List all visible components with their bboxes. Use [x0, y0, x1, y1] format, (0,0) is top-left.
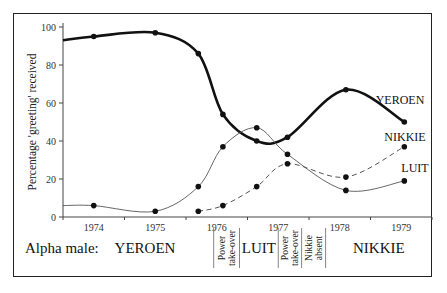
- y-tick-label: 60: [46, 98, 56, 109]
- alpha-male-label: Alpha male:: [25, 240, 99, 256]
- data-point-luit: [343, 188, 349, 194]
- x-tick-label: 1979: [391, 222, 411, 233]
- data-markers: [91, 30, 407, 214]
- y-tick-label: 100: [41, 22, 56, 33]
- text-labels: YEROENNIKKIELUIT: [376, 93, 430, 175]
- series-line-luit: [63, 128, 404, 212]
- period-label-line: absent: [314, 236, 324, 261]
- alpha-male-row: Alpha male:YEROENPowertake-overLUITPower…: [25, 228, 405, 268]
- data-point-yeroen: [220, 112, 226, 118]
- period-label-nikkie: NIKKIE: [353, 240, 405, 256]
- y-tick-label: 40: [46, 136, 56, 147]
- period-label-line: Power: [280, 235, 290, 260]
- y-axis-label: Percentage 'greeting' received: [26, 53, 39, 190]
- series-label-yeroen: YEROEN: [376, 93, 425, 107]
- data-point-luit: [254, 125, 260, 131]
- x-tick-label: 1974: [84, 222, 104, 233]
- data-point-nikkie: [220, 203, 226, 209]
- chart: 020406080100197419751976197719781979Perc…: [0, 0, 447, 293]
- data-point-luit: [196, 184, 202, 190]
- series-lines: [63, 32, 404, 212]
- data-point-yeroen: [152, 30, 158, 36]
- series-line-nikkie: [198, 147, 404, 212]
- data-point-nikkie: [285, 161, 291, 167]
- data-point-yeroen: [285, 134, 291, 140]
- period-label-line: take-over: [227, 229, 237, 266]
- data-point-luit: [152, 209, 158, 215]
- data-point-yeroen: [196, 51, 202, 57]
- series-label-luit: LUIT: [401, 161, 429, 175]
- data-point-yeroen: [254, 138, 260, 144]
- series-label-nikkie: NIKKIE: [384, 130, 425, 144]
- data-point-nikkie: [343, 174, 349, 180]
- period-rotated-label: Nikkieabsent: [304, 235, 324, 261]
- period-rotated-label: Powertake-over: [280, 229, 300, 266]
- data-point-nikkie: [196, 209, 202, 215]
- x-tick-label: 1976: [207, 222, 227, 233]
- period-label-line: Nikkie: [304, 235, 314, 261]
- axes: 020406080100197419751976197719781979Perc…: [26, 22, 432, 234]
- data-point-yeroen: [402, 119, 408, 125]
- x-tick-label: 1978: [330, 222, 350, 233]
- y-tick-label: 20: [46, 174, 56, 185]
- period-label-line: Power: [217, 235, 227, 260]
- y-tick-label: 80: [46, 60, 56, 71]
- period-label-yeroen: YEROEN: [115, 240, 176, 256]
- data-point-luit: [220, 144, 226, 150]
- period-rotated-label: Powertake-over: [217, 229, 237, 266]
- y-tick-label: 0: [51, 212, 56, 223]
- period-label-luit: LUIT: [242, 240, 276, 256]
- x-tick-label: 1975: [145, 222, 165, 233]
- data-point-luit: [91, 203, 97, 209]
- data-point-yeroen: [91, 34, 97, 40]
- data-point-luit: [402, 178, 408, 184]
- data-point-nikkie: [402, 144, 408, 150]
- series-line-yeroen: [63, 32, 404, 144]
- data-point-nikkie: [254, 184, 260, 190]
- period-label-line: take-over: [290, 229, 300, 266]
- data-point-yeroen: [343, 87, 349, 93]
- data-point-luit: [285, 152, 291, 158]
